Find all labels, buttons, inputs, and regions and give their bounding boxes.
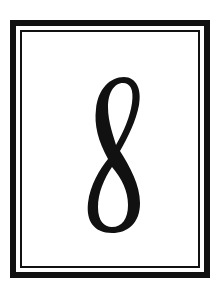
table-number-card: 8 [10, 20, 210, 278]
numeral-eight: 8 [84, 75, 144, 235]
